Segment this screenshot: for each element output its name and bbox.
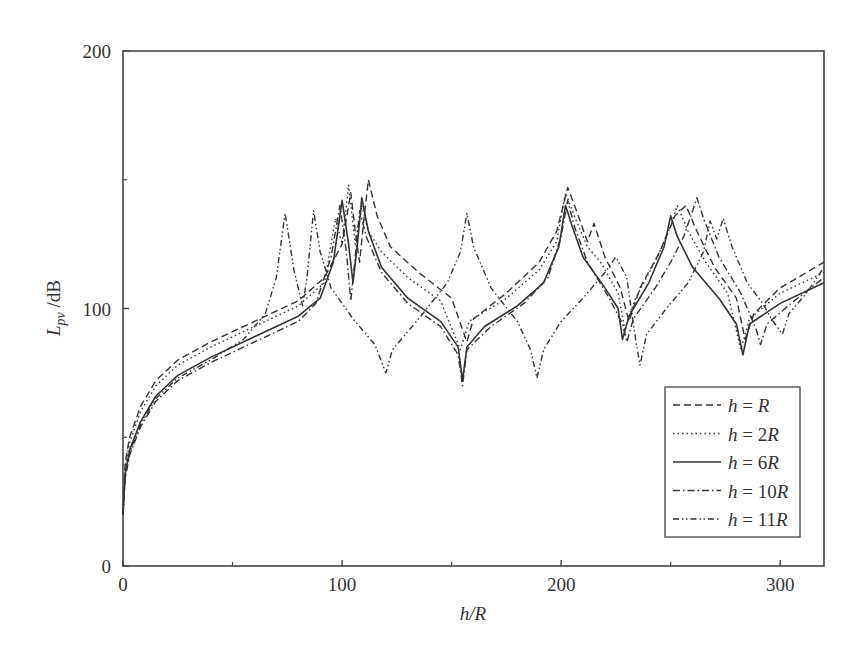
x-tick-label: 300	[766, 574, 795, 595]
chart: 01002003000100200 h/R Lpv /dB h = Rh = 2…	[0, 0, 864, 661]
legend-label: h = 6R	[728, 452, 779, 473]
svg-text:Lpv /dB: Lpv /dB	[43, 280, 68, 337]
y-tick-label: 200	[83, 41, 112, 62]
x-axis-label: h/R	[460, 603, 487, 624]
legend-label: h = R	[728, 395, 770, 416]
y-axis-label-unit: /dB	[43, 280, 64, 312]
x-tick-label: 100	[328, 574, 357, 595]
y-axis-label: Lpv /dB	[43, 280, 68, 337]
x-tick-label: 0	[118, 574, 128, 595]
y-tick-label: 100	[83, 299, 112, 320]
legend-label: h = 10R	[728, 481, 789, 502]
y-tick-label: 0	[102, 556, 112, 577]
y-axis-label-main: L	[43, 325, 64, 337]
x-tick-label: 200	[547, 574, 576, 595]
legend-label: h = 11R	[728, 509, 788, 530]
legend: h = Rh = 2Rh = 6Rh = 10Rh = 11R	[665, 387, 800, 537]
legend-label: h = 2R	[728, 424, 779, 445]
y-axis-label-sub: pv	[53, 311, 68, 326]
